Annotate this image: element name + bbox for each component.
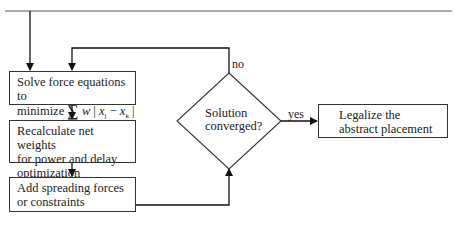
spreading-line2: or constraints [17, 195, 135, 209]
sub-k: k [125, 112, 129, 120]
recalculate-line2: for power and delay [17, 152, 135, 166]
abs-bar-left: | [93, 104, 96, 118]
yes-edge-label: yes [288, 107, 304, 122]
minimize-label: minimize [17, 104, 67, 118]
spreading-line1: Add spreading forces [17, 181, 135, 195]
legalize-placement-node: Legalize the abstract placement [318, 104, 448, 138]
recalculate-line1: Recalculate net weights [17, 124, 135, 152]
abs-bar-right: | [132, 104, 135, 118]
convergence-decision-node: Solution converged? [205, 107, 262, 133]
legalize-line2: abstract placement [339, 122, 447, 136]
sum-symbol: ∑ [67, 102, 78, 119]
spreading-forces-node: Add spreading forces or constraints [9, 177, 136, 212]
decision-line2: converged? [205, 120, 262, 133]
weight-symbol: w [82, 104, 90, 118]
minus-symbol: − [107, 104, 120, 118]
solve-line1: Solve force equations to [17, 75, 135, 103]
no-edge-label: no [232, 57, 244, 72]
legalize-line1: Legalize the [339, 108, 447, 122]
solve-force-equations-node: Solve force equations to minimize ∑ w | … [9, 71, 136, 105]
recalculate-weights-node: Recalculate net weights for power and de… [9, 120, 136, 163]
